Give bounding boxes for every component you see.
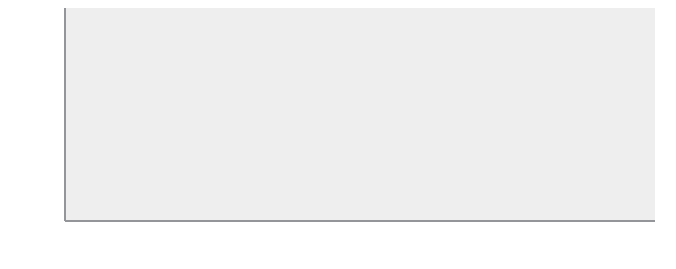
value-axis [65, 220, 655, 246]
category-label [0, 79, 60, 97]
category-label [0, 61, 60, 79]
category-label [0, 43, 60, 61]
category-label [0, 8, 60, 26]
category-label [0, 202, 60, 220]
category-label [0, 96, 60, 114]
category-label [0, 185, 60, 203]
figure-caption-clipped [18, 262, 318, 269]
x-axis-line [65, 220, 655, 222]
category-axis [0, 8, 60, 220]
bar-chart [0, 0, 676, 269]
category-label [0, 149, 60, 167]
category-label [0, 167, 60, 185]
bar-series [66, 8, 655, 220]
category-label [0, 132, 60, 150]
category-label [0, 114, 60, 132]
plot-area [65, 8, 655, 220]
category-label [0, 26, 60, 44]
